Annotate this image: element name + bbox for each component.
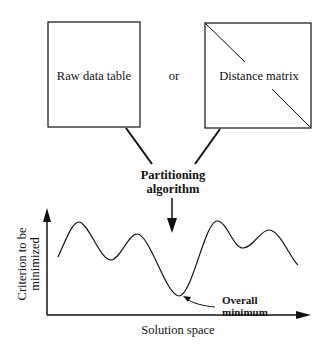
y-axis-label: Criterion to be minimized [15,227,42,300]
connector-right [195,129,220,164]
down-arrow-head [167,218,177,233]
x-axis-label: Solution space [141,323,215,337]
algorithm-label-line1: Partitioning [141,168,206,182]
matrix-diagonal-upper [205,23,245,62]
x-axis-arrowhead [296,311,311,319]
connector-left [126,128,152,164]
y-axis-label-line1: Criterion to be [15,227,29,300]
annotation-arrow-line [187,299,215,307]
criterion-curve [58,221,298,296]
or-label: or [169,69,180,83]
y-axis-arrowhead [43,208,51,222]
matrix-diagonal-lower [272,89,311,128]
annotation-line2: minimum [222,306,268,318]
annotation-line1: Overall [222,294,257,306]
algorithm-label-line2: algorithm [147,182,200,196]
raw-data-table-label: Raw data table [57,69,132,83]
y-axis-label-line2: minimized [28,237,42,291]
distance-matrix-label: Distance matrix [219,69,299,83]
partitioning-diagram: Raw data table or Distance matrix Partit… [0,0,331,355]
